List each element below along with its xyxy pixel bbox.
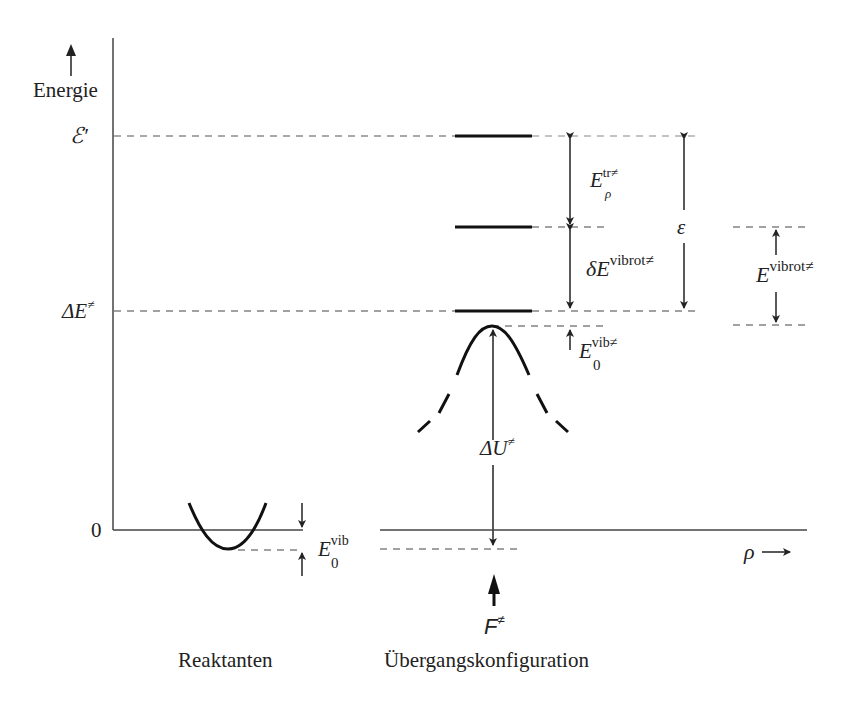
y-axis-label: Energie	[33, 78, 98, 102]
e0-vib-ts-subscript: 0	[593, 357, 601, 373]
e-tr-label: Etr≠	[589, 165, 618, 192]
delta-e-vibrot-label: δEvibrot≠	[586, 252, 654, 281]
e-vibrot-label: Evibrot≠	[755, 258, 814, 287]
f-label: F≠	[484, 612, 505, 639]
reactants-label: Reaktanten	[178, 648, 273, 672]
delta-u-label: ΔU≠	[479, 434, 515, 460]
f-arrow-icon	[488, 574, 500, 594]
e0-vib-subscript: 0	[331, 555, 339, 571]
transition-label: Übergangskonfiguration	[384, 648, 589, 672]
e-tr-subscript: ρ	[604, 186, 611, 201]
energy-level-diagram: Energie ℰ′ ΔE≠ Etr≠ ρ δEvibrot≠ ε Evibro…	[0, 0, 857, 709]
epsilon-label: ε	[677, 215, 686, 239]
x-axis-label: ρ	[743, 539, 755, 564]
reactant-well-curve	[189, 503, 266, 549]
level-zero-label: 0	[91, 518, 102, 542]
level-delta-e-label: ΔE≠	[61, 297, 94, 323]
level-e-prime-label: ℰ′	[70, 123, 89, 148]
